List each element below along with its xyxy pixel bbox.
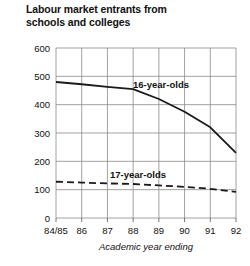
x-tick-87: 87 [102,225,113,236]
x-tick-88: 88 [128,225,139,236]
y-tick-100: 100 [34,184,50,195]
x-tick-86: 86 [76,225,87,236]
y-tick-200: 200 [34,156,50,167]
y-tick-600: 600 [34,43,50,54]
series-label-16-year-olds: 16-year-olds [133,79,189,90]
x-tick-92: 92 [231,225,242,236]
y-axis-tick-labels: 600 500 400 300 200 100 0 [34,43,50,224]
chart-figure: Labour market entrants from schools and … [0,0,250,266]
x-axis-ticks [56,218,236,222]
x-axis-tick-labels: 84/85 86 87 88 89 90 91 92 [44,225,241,236]
y-tick-500: 500 [34,71,50,82]
y-tick-400: 400 [34,99,50,110]
y-tick-300: 300 [34,128,50,139]
x-axis-title: Academic year ending [98,241,194,252]
line-chart-plot: 600 500 400 300 200 100 0 16-year-olds 1… [0,0,250,266]
y-tick-0: 0 [45,213,50,224]
x-tick-91: 91 [205,225,216,236]
x-tick-89: 89 [154,225,165,236]
series-label-17-year-olds: 17-year-olds [110,169,166,180]
x-tick-90: 90 [179,225,190,236]
x-tick-8485: 84/85 [44,225,68,236]
